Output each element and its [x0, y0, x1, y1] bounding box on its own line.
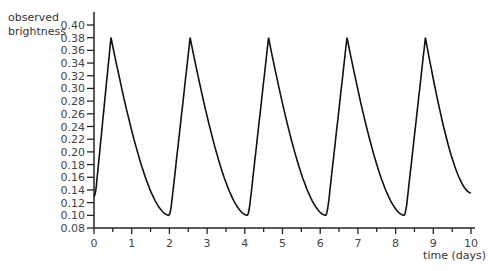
y-tick-label: 0.30: [61, 82, 86, 95]
x-tick-label: 8: [392, 237, 399, 250]
y-axis: 0.080.100.120.140.160.180.200.220.240.26…: [61, 12, 95, 235]
x-tick-label: 1: [128, 237, 135, 250]
x-tick-label: 7: [354, 237, 361, 250]
x-axis: 012345678910: [91, 228, 479, 250]
y-tick-label: 0.10: [61, 209, 86, 222]
light-curve-chart: observed brightness 0.080.100.120.140.16…: [0, 0, 492, 271]
y-tick-label: 0.18: [61, 159, 86, 172]
y-tick-label: 0.38: [61, 32, 86, 45]
x-tick-label: 3: [204, 237, 211, 250]
x-tick-label: 6: [317, 237, 324, 250]
x-tick-label: 4: [241, 237, 248, 250]
x-axis-title: time (days): [423, 249, 486, 262]
y-tick-label: 0.34: [61, 57, 86, 70]
y-tick-label: 0.28: [61, 95, 86, 108]
y-tick-label: 0.24: [61, 121, 86, 134]
y-axis-title-line1: observed: [8, 11, 59, 24]
y-tick-label: 0.26: [61, 108, 86, 121]
y-axis-title-line2: brightness: [8, 25, 66, 38]
y-tick-label: 0.36: [61, 44, 86, 57]
y-tick-label: 0.16: [61, 171, 86, 184]
y-tick-label: 0.20: [61, 146, 86, 159]
y-tick-label: 0.14: [61, 184, 86, 197]
y-tick-label: 0.32: [61, 70, 86, 83]
x-tick-label: 2: [166, 237, 173, 250]
y-tick-label: 0.40: [61, 19, 86, 32]
x-tick-label: 5: [279, 237, 286, 250]
y-tick-label: 0.08: [61, 222, 86, 235]
y-tick-label: 0.12: [61, 197, 86, 210]
x-tick-label: 0: [91, 237, 98, 250]
y-tick-label: 0.22: [61, 133, 86, 146]
y-axis-title: observed brightness: [8, 11, 66, 38]
brightness-curve: [94, 38, 471, 216]
